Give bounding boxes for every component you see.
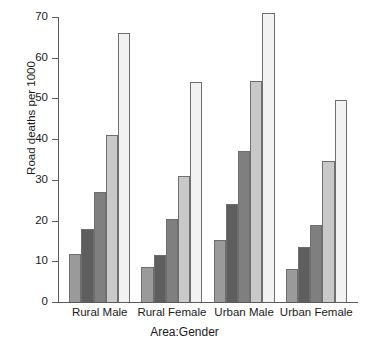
bar — [69, 254, 81, 302]
bar — [322, 161, 334, 302]
y-tick-10 — [52, 261, 58, 262]
y-tick-label-60: 60 — [8, 52, 48, 64]
bar — [94, 192, 106, 302]
bar — [262, 13, 274, 302]
bar — [335, 100, 347, 302]
group-label: Urban Female — [266, 306, 367, 318]
y-tick-60 — [52, 58, 58, 59]
bar — [81, 229, 93, 302]
bar — [310, 225, 322, 302]
y-tick-label-10: 10 — [8, 255, 48, 267]
y-tick-70 — [52, 17, 58, 18]
bar — [214, 240, 226, 302]
x-axis-title: Area:Gender — [0, 325, 369, 339]
bar — [166, 219, 178, 302]
y-tick-20 — [52, 221, 58, 222]
x-axis-line — [58, 302, 358, 303]
bar — [178, 176, 190, 302]
y-tick-label-0: 0 — [8, 296, 48, 308]
bar — [118, 33, 130, 302]
y-tick-label-20: 20 — [8, 215, 48, 227]
y-axis-line — [58, 17, 59, 302]
bar-chart: Road deaths per 1000 010203040506070 Rur… — [0, 0, 369, 345]
bar — [286, 269, 298, 302]
y-tick-label-40: 40 — [8, 133, 48, 145]
y-tick-0 — [52, 302, 58, 303]
bar — [141, 267, 153, 302]
y-tick-50 — [52, 98, 58, 99]
bar-group — [214, 17, 275, 302]
y-tick-30 — [52, 180, 58, 181]
bar — [298, 247, 310, 302]
bar-group — [141, 17, 202, 302]
y-tick-40 — [52, 139, 58, 140]
bar — [238, 151, 250, 302]
bar — [154, 255, 166, 302]
y-tick-label-50: 50 — [8, 92, 48, 104]
bar — [190, 82, 202, 302]
bar-group — [69, 17, 130, 302]
bar — [226, 204, 238, 302]
bar-group — [286, 17, 347, 302]
bar — [106, 135, 118, 302]
bar — [250, 81, 262, 302]
y-tick-label-70: 70 — [8, 11, 48, 23]
y-tick-label-30: 30 — [8, 174, 48, 186]
